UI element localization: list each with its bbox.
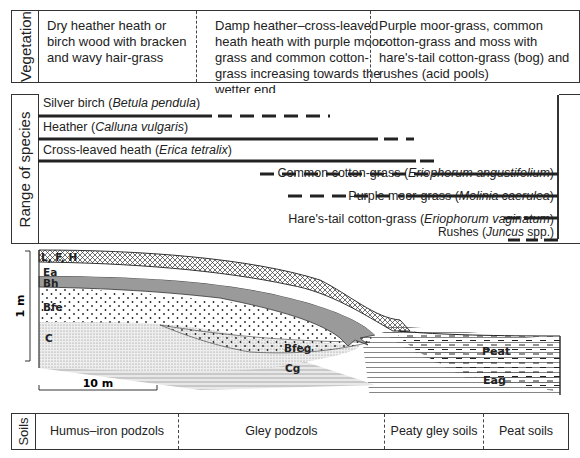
horizontal-scale-label: 10 m (83, 377, 114, 390)
soil-zone-peaty-gley-soils: Peaty gley soils (384, 414, 483, 449)
label-bfe: Bfe (43, 301, 63, 313)
soils-panel: Soils Humus–iron podzols Gley podzols Pe… (11, 413, 569, 450)
label-peat: Peat (482, 345, 510, 358)
soil-zone-gley-podzols: Gley podzols (178, 414, 384, 449)
label-bfeg: Bfeg (284, 342, 311, 354)
species-range-lines (0, 0, 580, 250)
soil-zone-humus-iron-podzols: Humus–iron podzols (36, 414, 178, 449)
label-cg: Cg (285, 362, 300, 374)
label-lfh: L, F, H (41, 251, 77, 263)
soil-zone-peat-soils: Peat soils (483, 414, 568, 449)
soil-profile-cross-section: L, F, H Ea Bh Bfe C Bfeg Cg Peat Eag 1 m… (0, 245, 580, 395)
soils-label: Soils (12, 414, 36, 449)
label-eag: Eag (483, 374, 506, 387)
label-bh: Bh (43, 277, 58, 289)
label-c: C (45, 332, 53, 344)
vertical-scale-label: 1 m (14, 295, 27, 318)
